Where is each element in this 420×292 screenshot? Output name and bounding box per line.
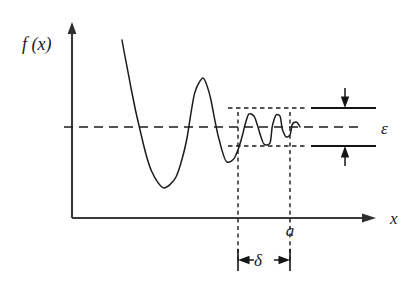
epsilon-arrow-bottom-head	[341, 146, 349, 158]
epsilon-arrow-top-head	[341, 97, 349, 109]
figure-canvas: ε δ f (x) x a	[0, 0, 420, 292]
delta-guides-group	[238, 112, 290, 262]
epsilon-label: ε	[381, 119, 388, 138]
point-a-label: a	[286, 221, 295, 240]
function-curve	[122, 40, 300, 188]
delta-label: δ	[254, 251, 263, 270]
y-axis-label: f (x)	[22, 34, 51, 55]
delta-arrow-left-head	[238, 256, 250, 264]
limit-diagram-svg: ε δ f (x) x a	[0, 0, 420, 292]
axes-group	[68, 22, 376, 223]
delta-measure-group: δ	[238, 249, 290, 271]
delta-arrow-right-head	[279, 256, 291, 264]
x-axis-label: x	[389, 209, 398, 228]
y-axis-arrowhead	[68, 22, 77, 34]
x-axis-arrowhead	[362, 213, 376, 222]
